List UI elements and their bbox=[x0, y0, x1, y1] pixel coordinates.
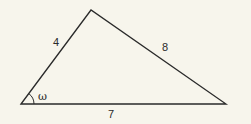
side-label-left: 4 bbox=[53, 36, 59, 48]
angle-label-omega: ω bbox=[38, 90, 47, 103]
side-label-base: 7 bbox=[108, 108, 114, 120]
angle-arc bbox=[29, 94, 34, 104]
triangle-diagram: 4 8 7 ω bbox=[0, 0, 251, 124]
triangle-shape bbox=[21, 10, 226, 104]
triangle-figure: 4 8 7 ω bbox=[0, 0, 251, 124]
side-label-right: 8 bbox=[162, 41, 168, 53]
